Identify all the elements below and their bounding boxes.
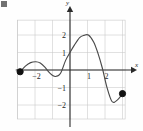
- y-tick-label: 2: [62, 31, 66, 40]
- x-axis-label: x: [135, 62, 138, 69]
- y-tick-label: −2: [57, 101, 66, 110]
- function-plot: −21221−1−2: [0, 0, 143, 131]
- left-endpoint: [17, 69, 23, 75]
- x-tick-label: 1: [87, 72, 91, 81]
- x-tick-label: −2: [32, 72, 41, 81]
- y-tick-label: −1: [57, 84, 66, 93]
- right-endpoint: [119, 91, 125, 97]
- y-axis-label: y: [66, 0, 69, 7]
- y-tick-label: 1: [62, 49, 66, 58]
- graph-figure: −21221−1−2 y x: [0, 0, 143, 131]
